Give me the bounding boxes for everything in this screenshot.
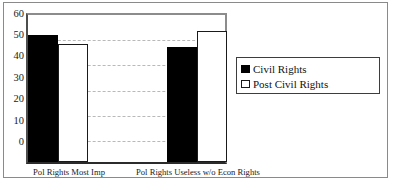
y-axis-tick-60: 60 [2, 8, 24, 19]
bar-civil-rights-pol-rights-useless [167, 47, 197, 162]
legend-swatch-filled-square-icon [241, 65, 250, 73]
chart-screenshot: 60 50 40 30 20 10 0 Pol Rights Most Imp … [0, 0, 393, 184]
y-axis-tick-labels: 60 50 40 30 20 10 0 [0, 0, 24, 184]
legend-item-post-civil-rights: Post Civil Rights [241, 76, 375, 91]
plot-area [26, 13, 227, 164]
legend-label-civil-rights: Civil Rights [253, 63, 307, 75]
chart-legend: Civil Rights Post Civil Rights [236, 57, 380, 94]
y-axis-tick-0: 0 [2, 136, 24, 147]
bar-civil-rights-pol-rights-most-imp [28, 35, 58, 162]
y-axis-tick-30: 30 [2, 72, 24, 83]
bar-post-civil-rights-pol-rights-most-imp [58, 44, 88, 162]
legend-swatch-outlined-square-icon [241, 80, 250, 88]
legend-item-civil-rights: Civil Rights [241, 61, 375, 76]
y-axis-tick-50: 50 [2, 29, 24, 40]
x-axis-tick-label-0: Pol Rights Most Imp [14, 167, 124, 177]
bar-post-civil-rights-pol-rights-useless [197, 31, 227, 162]
y-axis-tick-20: 20 [2, 93, 24, 104]
y-axis-tick-10: 10 [2, 115, 24, 126]
legend-label-post-civil-rights: Post Civil Rights [253, 78, 328, 90]
x-axis-tick-label-1: Pol Rights Useless w/o Econ Rights [118, 167, 278, 177]
y-axis-tick-40: 40 [2, 50, 24, 61]
